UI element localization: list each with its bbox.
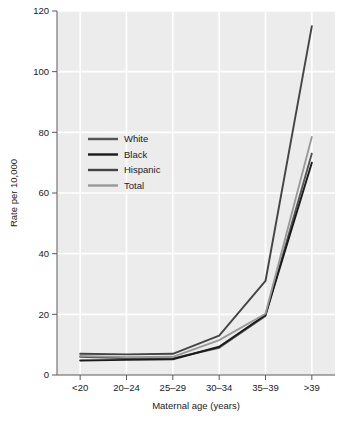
y-tick-label: 60 <box>38 187 49 198</box>
legend-label-white: White <box>124 133 148 144</box>
x-tick-label: 25–29 <box>160 382 186 393</box>
x-tick-label: >39 <box>304 382 320 393</box>
legend-label-total: Total <box>124 180 144 191</box>
x-axis-title: Maternal age (years) <box>152 400 240 411</box>
y-axis-tick-labels: 020406080100120 <box>33 5 49 380</box>
x-tick-label: 30–34 <box>206 382 232 393</box>
y-tick-label: 40 <box>38 248 49 259</box>
y-axis-ticks <box>52 11 57 375</box>
y-tick-label: 120 <box>33 5 49 16</box>
x-axis-ticks <box>80 375 312 380</box>
y-tick-label: 80 <box>38 127 49 138</box>
legend-label-black: Black <box>124 149 147 160</box>
legend-label-hispanic: Hispanic <box>124 164 161 175</box>
y-axis-title: Rate per 10,000 <box>8 159 19 227</box>
y-tick-label: 20 <box>38 309 49 320</box>
x-axis-tick-labels: <2020–2425–2930–3435–39>39 <box>72 382 320 393</box>
line-chart: 020406080100120 <2020–2425–2930–3435–39>… <box>0 0 348 423</box>
y-tick-label: 100 <box>33 66 49 77</box>
y-tick-label: 0 <box>44 369 49 380</box>
x-tick-label: 20–24 <box>113 382 139 393</box>
x-tick-label: <20 <box>72 382 88 393</box>
x-tick-label: 35–39 <box>252 382 278 393</box>
chart-figure: 020406080100120 <2020–2425–2930–3435–39>… <box>0 0 348 423</box>
